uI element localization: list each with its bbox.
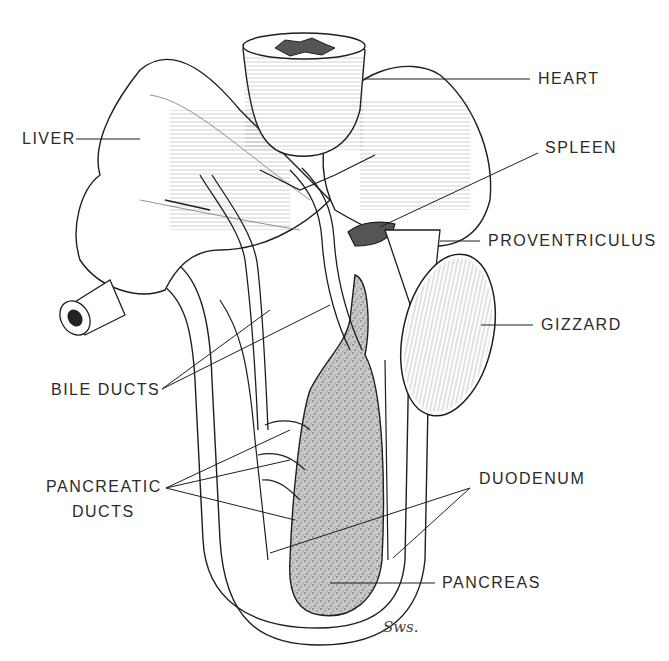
label-pancreas: PANCREAS: [442, 575, 541, 591]
label-bile-ducts: BILE DUCTS: [51, 382, 160, 398]
label-spleen: SPLEEN: [545, 140, 617, 156]
artist-signature: Sws.: [383, 618, 419, 636]
label-pancreatic-ducts-1: PANCREATIC: [46, 479, 162, 495]
label-proventriculus: PROVENTRICULUS: [488, 233, 657, 249]
bowel-stump: [54, 280, 125, 341]
label-heart: HEART: [538, 71, 599, 87]
heart: [243, 33, 365, 156]
label-duodenum: DUODENUM: [479, 471, 585, 487]
label-liver: LIVER: [22, 131, 76, 147]
pancreas: [290, 275, 384, 616]
label-pancreatic-ducts-2: DUCTS: [72, 504, 135, 520]
label-gizzard: GIZZARD: [541, 317, 622, 333]
anatomical-diagram: LIVER HEART SPLEEN PROVENTRICULUS GIZZAR…: [0, 0, 669, 661]
